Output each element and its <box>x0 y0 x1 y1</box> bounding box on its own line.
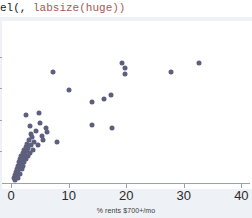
code-token-option: labsize(huge)) <box>33 2 125 14</box>
x-axis-tick-label: 40 <box>234 188 248 203</box>
scatter-point <box>123 71 128 76</box>
scatter-point <box>31 147 36 152</box>
scatter-point <box>54 139 59 144</box>
scatter-point <box>28 132 33 137</box>
scatter-point <box>90 122 95 127</box>
scatter-point <box>24 113 29 118</box>
scatter-point <box>66 87 71 92</box>
scatter-point <box>51 70 56 75</box>
scatter-point <box>17 171 22 176</box>
scatter-point <box>45 130 50 135</box>
code-token-plain: el(, <box>0 2 33 14</box>
scatter-point <box>109 92 114 97</box>
scatter-point <box>16 176 21 181</box>
code-line: el(, labsize(huge)) <box>0 0 252 17</box>
x-axis-tick-label: 10 <box>62 188 76 203</box>
graph-region: 010203040 % rents $700+/mo <box>0 17 252 218</box>
scatter-point <box>102 97 107 102</box>
scatter-point <box>41 138 46 143</box>
scatter-point <box>33 128 38 133</box>
scatter-point <box>37 120 42 125</box>
x-axis-tick-label: 0 <box>8 188 15 203</box>
scatter-point <box>89 100 94 105</box>
scatter-point <box>27 124 32 129</box>
scatter-point <box>35 143 40 148</box>
scatter-point <box>37 111 42 116</box>
scatter-point <box>123 65 128 70</box>
x-axis-tick-label: 20 <box>119 188 133 203</box>
scatter-point <box>109 125 114 130</box>
x-axis-title: % rents $700+/mo <box>0 207 252 214</box>
scatter-point <box>169 70 174 75</box>
scatter-plot-area <box>2 25 250 183</box>
scatter-point <box>196 60 201 65</box>
x-axis-tick-label: 30 <box>177 188 191 203</box>
